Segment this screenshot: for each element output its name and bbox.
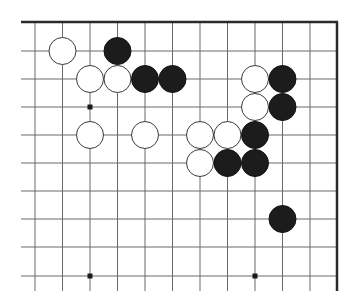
white-stone[interactable] [77, 66, 104, 93]
black-stone[interactable] [269, 94, 296, 121]
white-stone[interactable] [187, 150, 214, 177]
black-stone[interactable] [242, 150, 269, 177]
white-stone[interactable] [104, 66, 131, 93]
white-stone[interactable] [132, 122, 159, 149]
black-stone[interactable] [269, 66, 296, 93]
white-stone[interactable] [214, 122, 241, 149]
black-stone[interactable] [214, 150, 241, 177]
black-stone[interactable] [242, 122, 269, 149]
black-stone[interactable] [132, 66, 159, 93]
go-board[interactable] [0, 0, 359, 305]
black-stone[interactable] [159, 66, 186, 93]
star-point [88, 274, 93, 279]
white-stone[interactable] [187, 122, 214, 149]
star-point [88, 105, 93, 110]
black-stone[interactable] [269, 206, 296, 233]
black-stone[interactable] [104, 38, 131, 65]
white-stone[interactable] [242, 66, 269, 93]
star-point [253, 274, 258, 279]
white-stone[interactable] [49, 38, 76, 65]
white-stone[interactable] [242, 94, 269, 121]
white-stone[interactable] [77, 122, 104, 149]
